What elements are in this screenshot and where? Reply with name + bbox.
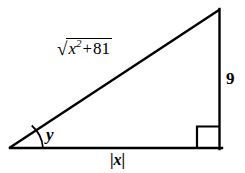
abs-bar-right: | — [122, 151, 126, 168]
horizontal-leg-label: |x| — [110, 152, 125, 168]
radicand-operator: + — [81, 39, 93, 58]
triangle-hypotenuse-line — [10, 10, 219, 148]
radicand-variable: x — [68, 39, 76, 58]
abs-variable: x — [114, 151, 122, 168]
radicand: x2+81 — [66, 38, 112, 57]
radicand-constant: 81 — [93, 39, 110, 58]
hypotenuse-label: √x2+81 — [57, 38, 112, 58]
triangle-figure — [0, 0, 245, 173]
vertical-leg-label: 9 — [226, 70, 235, 87]
right-angle-marker — [197, 127, 219, 149]
angle-label: y — [46, 126, 54, 143]
